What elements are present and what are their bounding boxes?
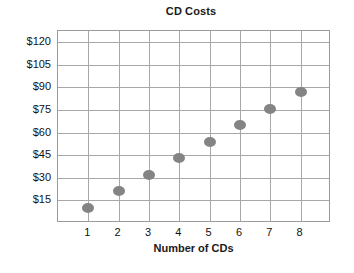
gridline-horizontal	[58, 178, 329, 179]
gridline-vertical	[270, 31, 271, 221]
y-axis-tick-labels: $15$30$45$60$75$90$105$120	[0, 0, 53, 273]
data-point	[82, 203, 94, 213]
x-axis-tick-label: 3	[145, 226, 151, 238]
gridline-vertical	[88, 31, 89, 221]
data-point	[264, 104, 276, 114]
data-point	[234, 120, 246, 130]
gridline-horizontal	[58, 133, 329, 134]
gridline-horizontal	[58, 110, 329, 111]
gridline-vertical	[149, 31, 150, 221]
chart-figure: CD Costs $15$30$45$60$75$90$105$120 1234…	[0, 0, 354, 273]
gridline-vertical	[301, 31, 302, 221]
y-axis-tick-label: $90	[33, 80, 51, 92]
y-axis-tick-label: $45	[33, 148, 51, 160]
x-axis-tick-label: 8	[297, 226, 303, 238]
x-axis-tick-label: 2	[115, 226, 121, 238]
y-axis-tick-label: $105	[27, 58, 51, 70]
gridline-horizontal	[58, 87, 329, 88]
gridline-horizontal	[58, 155, 329, 156]
x-axis-tick-label: 7	[266, 226, 272, 238]
chart-title-text: CD Costs	[166, 5, 216, 17]
x-axis-tick-labels: 12345678	[57, 226, 330, 242]
data-point	[173, 153, 185, 163]
y-axis-tick-label: $75	[33, 103, 51, 115]
plot-area	[57, 30, 330, 222]
y-axis-tick-label: $60	[33, 126, 51, 138]
y-axis-tick-label: $30	[33, 171, 51, 183]
gridline-horizontal	[58, 200, 329, 201]
gridline-vertical	[179, 31, 180, 221]
data-point	[113, 186, 125, 196]
y-axis-tick-label: $15	[33, 193, 51, 205]
gridline-vertical	[210, 31, 211, 221]
x-axis-tick-label: 4	[175, 226, 181, 238]
x-axis-tick-label: 6	[236, 226, 242, 238]
x-axis-title-text: Number of CDs	[153, 242, 233, 254]
gridline-horizontal	[58, 65, 329, 66]
data-point	[295, 87, 307, 97]
chart-title: CD Costs	[0, 5, 354, 17]
x-axis-title: Number of CDs	[57, 242, 330, 254]
data-point	[204, 137, 216, 147]
data-point	[143, 170, 155, 180]
x-axis-tick-label: 5	[206, 226, 212, 238]
y-axis-tick-label: $120	[27, 35, 51, 47]
x-axis-tick-label: 1	[84, 226, 90, 238]
gridline-horizontal	[58, 42, 329, 43]
